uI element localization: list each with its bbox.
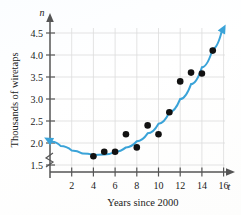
y-tick-label: 4.5 xyxy=(31,28,44,39)
data-point xyxy=(101,149,108,156)
data-point xyxy=(134,144,141,151)
data-point xyxy=(144,122,151,129)
x-axis-arrow-icon xyxy=(226,168,235,176)
y-tick-label: 3.5 xyxy=(31,72,44,83)
x-tick-label: 14 xyxy=(197,180,207,191)
x-axis-ticks: 246810121416 xyxy=(69,168,228,192)
y-axis-variable-label: n xyxy=(40,7,45,18)
x-tick-label: 6 xyxy=(113,180,118,191)
data-point xyxy=(209,47,216,54)
y-tick-label: 2.0 xyxy=(31,138,44,149)
data-point xyxy=(199,70,206,77)
y-tick-label: 3.0 xyxy=(31,94,44,105)
wiretaps-scatter-figure: 1.52.02.53.03.54.04.5 246810121416 n t Y… xyxy=(0,0,241,215)
plot-area: 1.52.02.53.03.54.04.5 246810121416 n t Y… xyxy=(0,0,241,215)
y-axis-caption: Thousands of wiretaps xyxy=(9,52,20,147)
data-point xyxy=(90,153,97,160)
x-axis-caption: Years since 2000 xyxy=(107,197,178,208)
y-tick-label: 1.5 xyxy=(31,160,44,171)
x-tick-label: 2 xyxy=(69,180,74,191)
x-axis-variable-label: t xyxy=(228,181,231,192)
data-point xyxy=(166,109,173,116)
x-tick-label: 4 xyxy=(91,180,96,191)
data-point xyxy=(112,149,119,156)
data-point xyxy=(155,131,162,138)
data-point xyxy=(188,69,195,76)
y-tick-label: 4.0 xyxy=(31,50,44,61)
y-axis-ticks: 1.52.02.53.03.54.04.5 xyxy=(31,28,56,171)
x-tick-label: 12 xyxy=(175,180,185,191)
x-tick-label: 8 xyxy=(134,180,139,191)
y-tick-label: 2.5 xyxy=(31,116,44,127)
x-tick-label: 10 xyxy=(154,180,164,191)
data-point xyxy=(177,78,184,85)
y-axis-arrow-icon xyxy=(46,13,54,22)
data-point xyxy=(123,131,130,138)
